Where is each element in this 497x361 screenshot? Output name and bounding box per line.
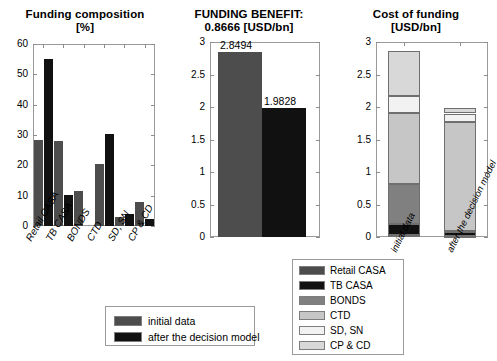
- chart3-ytick-label: 2.5: [340, 70, 371, 80]
- chart2-subtitle: 0.8666 [USD/bn]: [163, 21, 335, 34]
- chart1-ytick-label: 20: [0, 160, 28, 170]
- legend-label: CTD: [330, 310, 351, 321]
- chart3-ytick: [376, 237, 380, 238]
- legend-funding-categories: Retail CASATB CASABONDSCTDSD, SNCP & CD: [292, 259, 404, 355]
- chart2-bar-after: [262, 108, 306, 237]
- chart1-xtick-top: [84, 44, 85, 48]
- chart1-xtick-top: [104, 44, 105, 48]
- chart1-ytick-label: 50: [0, 69, 28, 79]
- chart3-ytick-right: [484, 42, 488, 43]
- chart2-ytick-label: 1.5: [174, 135, 205, 145]
- chart3-stack-segment: [388, 51, 420, 96]
- legend-item: after the decision model: [114, 331, 259, 343]
- chart2-ytick-right: [316, 107, 320, 108]
- chart1-ytick-right: [151, 74, 155, 75]
- chart2-ytick-right: [316, 172, 320, 173]
- legend-label: after the decision model: [148, 331, 259, 343]
- chart3-stack-segment: [444, 108, 476, 113]
- chart1-ytick: [33, 105, 37, 106]
- legend-item: CP & CD: [299, 340, 370, 351]
- chart2-ytick-right: [316, 205, 320, 206]
- chart2-ytick: [210, 140, 214, 141]
- legend-item: Retail CASA: [299, 265, 386, 276]
- chart1-ytick-right: [151, 44, 155, 45]
- chart1-title: Funding composition: [4, 8, 166, 21]
- chart3-ytick-right: [484, 75, 488, 76]
- chart1-xtick-top: [145, 44, 146, 48]
- chart1-ytick-label: 40: [0, 100, 28, 110]
- chart3-ytick: [376, 140, 380, 141]
- chart1-subtitle: [%]: [4, 21, 166, 34]
- chart3-ytick: [376, 107, 380, 108]
- chart3-ytick: [376, 205, 380, 206]
- chart3-ytick: [376, 172, 380, 173]
- chart1-bar-after: [105, 134, 114, 226]
- chart3-stack-segment: [388, 113, 420, 184]
- chart1-ytick-label: 30: [0, 130, 28, 140]
- chart1-ytick-right: [151, 196, 155, 197]
- legend-swatch: [299, 341, 325, 350]
- chart1-ytick-label: 0: [0, 221, 28, 231]
- legend-label: SD, SN: [330, 325, 363, 336]
- chart2-ytick-label: 2.5: [174, 70, 205, 80]
- legend-swatch: [299, 266, 325, 275]
- chart3-ytick-label: 1.5: [340, 135, 371, 145]
- chart1-ytick-label: 10: [0, 191, 28, 201]
- chart3-xtick-top: [404, 42, 405, 46]
- chart2-title: FUNDING BENEFIT:: [163, 8, 335, 21]
- chart3-ytick-label: 0: [340, 232, 371, 242]
- chart2-ytick-right: [316, 42, 320, 43]
- chart3-xtick-top: [460, 42, 461, 46]
- chart1-ytick-right: [151, 135, 155, 136]
- legend-item: BONDS: [299, 295, 366, 306]
- chart1-bar-initial: [95, 164, 104, 226]
- chart3-ytick-label: 3: [340, 37, 371, 47]
- chart-panel-cost-of-funding: Cost of funding [USD/bn] 00.511.522.53in…: [335, 0, 497, 300]
- chart-panel-funding-composition: Funding composition [%] 0102030405060Ret…: [0, 0, 170, 300]
- chart1-ytick: [33, 74, 37, 75]
- legend-item: TB CASA: [299, 280, 373, 291]
- chart3-stack-segment: [444, 114, 476, 122]
- legend-item: initial data: [114, 315, 195, 327]
- legend-item: SD, SN: [299, 325, 363, 336]
- chart3-ytick-right: [484, 107, 488, 108]
- chart1-ytick: [33, 135, 37, 136]
- chart2-ytick: [210, 107, 214, 108]
- chart1-xtick-top: [43, 44, 44, 48]
- chart2-ytick-label: 2: [174, 102, 205, 112]
- chart2-ytick-right: [316, 237, 320, 238]
- legend-swatch: [299, 311, 325, 320]
- chart2-bar-value-label: 1.9828: [264, 95, 296, 107]
- chart3-ytick-label: 0.5: [340, 200, 371, 210]
- chart3-subtitle: [USD/bn]: [335, 21, 497, 34]
- legend-label: CP & CD: [330, 340, 370, 351]
- legend-label: TB CASA: [330, 280, 373, 291]
- chart1-xtick-top: [124, 44, 125, 48]
- chart1-ytick-right: [151, 165, 155, 166]
- chart3-ytick-label: 1: [340, 167, 371, 177]
- chart1-ytick-right: [151, 105, 155, 106]
- chart2-ytick-label: 3: [174, 37, 205, 47]
- chart1-ytick-label: 60: [0, 39, 28, 49]
- chart2-ytick: [210, 205, 214, 206]
- chart2-ytick: [210, 172, 214, 173]
- legend-initial-after: initial dataafter the decision model: [105, 306, 255, 346]
- chart3-title: Cost of funding: [335, 8, 497, 21]
- legend-swatch: [114, 316, 142, 326]
- legend-label: Retail CASA: [330, 265, 386, 276]
- chart2-bar-initial: [218, 52, 262, 237]
- chart3-ytick-right: [484, 237, 488, 238]
- chart3-ytick-right: [484, 140, 488, 141]
- legend-label: BONDS: [330, 295, 366, 306]
- chart3-stack-segment: [388, 96, 420, 113]
- legend-item: CTD: [299, 310, 351, 321]
- chart2-ytick: [210, 75, 214, 76]
- chart3-ytick: [376, 42, 380, 43]
- chart3-ytick: [376, 75, 380, 76]
- chart1-xtick-top: [63, 44, 64, 48]
- chart-panel-funding-benefit: FUNDING BENEFIT: 0.8666 [USD/bn] 00.511.…: [163, 0, 335, 260]
- chart2-ytick-label: 0.5: [174, 200, 205, 210]
- chart2-ytick: [210, 237, 214, 238]
- chart3-ytick-label: 2: [340, 102, 371, 112]
- chart2-ytick-right: [316, 75, 320, 76]
